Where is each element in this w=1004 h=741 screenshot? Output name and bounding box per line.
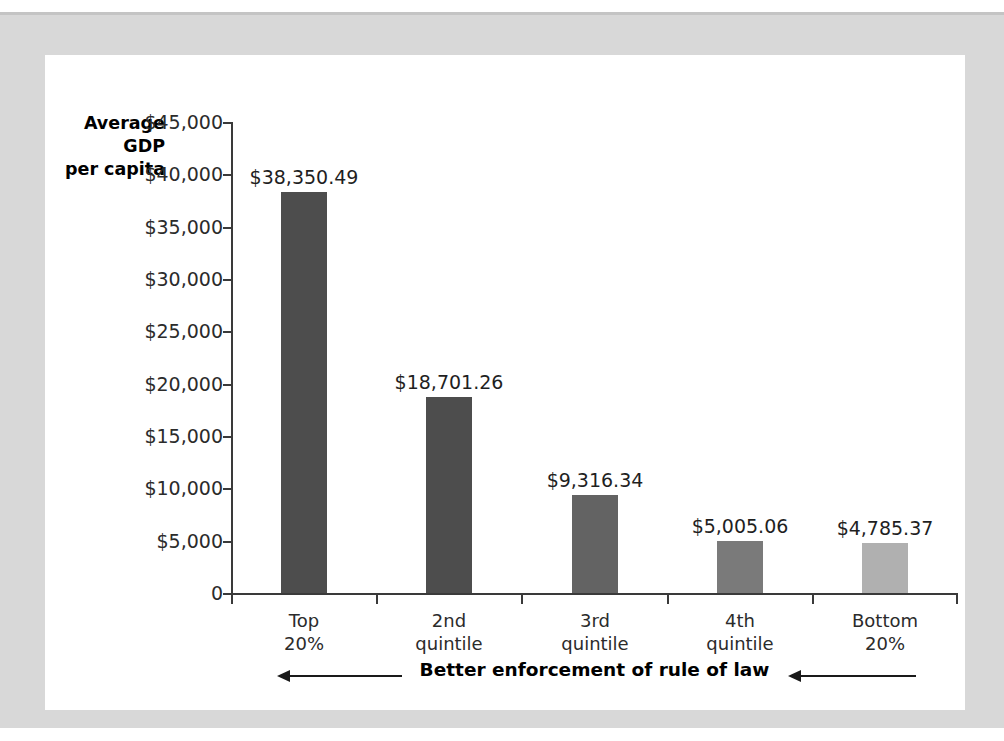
y-axis-title-line-2: GDP: [45, 135, 165, 158]
x-category-line-1: Bottom: [785, 609, 985, 632]
y-tick-label: $30,000: [144, 270, 223, 289]
x-tick-mark: [231, 595, 233, 604]
y-tick-mark: [223, 279, 232, 281]
bar-value-label: $4,785.37: [785, 517, 985, 539]
y-tick-label: $15,000: [144, 427, 223, 446]
y-tick-label: $5,000: [157, 532, 223, 551]
left-pointing-arrow-icon: [277, 670, 402, 682]
y-tick-mark: [223, 331, 232, 333]
y-tick-mark: [223, 541, 232, 543]
bar-column: [572, 122, 618, 593]
arrow-shaft: [799, 675, 917, 677]
y-tick-mark: [223, 384, 232, 386]
left-pointing-arrow-icon-2: [788, 670, 917, 682]
arrow-shaft: [288, 675, 402, 677]
bar-2nd-quintile[interactable]: [426, 397, 472, 593]
y-tick-label: 0: [211, 584, 223, 603]
x-tick-mark: [667, 595, 669, 604]
chart-page: Average GDP per capita $45,000 $40,000 $…: [0, 0, 1004, 741]
y-tick-label: $25,000: [144, 322, 223, 341]
x-axis-line: [231, 593, 958, 595]
y-tick-label: $35,000: [144, 218, 223, 237]
bar-column: [426, 122, 472, 593]
mat-top-edge: [0, 12, 1004, 15]
y-axis-line: [231, 122, 233, 594]
y-tick-mark: [223, 122, 232, 124]
bar-column: [281, 122, 327, 593]
bar-value-label: $38,350.49: [204, 166, 404, 188]
annotation-text: Better enforcement of rule of law: [420, 661, 770, 680]
bar-top-20[interactable]: [281, 192, 327, 593]
y-tick-label: $45,000: [144, 113, 223, 132]
bar-chart-plot-area: Average GDP per capita $45,000 $40,000 $…: [45, 55, 965, 710]
figure-panel: Average GDP per capita $45,000 $40,000 $…: [45, 55, 965, 710]
bar-value-label: $18,701.26: [349, 371, 549, 393]
y-tick-mark: [223, 436, 232, 438]
y-tick-label: $20,000: [144, 375, 223, 394]
bar-3rd-quintile[interactable]: [572, 495, 618, 593]
x-category-label-bottom-20: Bottom 20%: [785, 609, 985, 655]
bar-value-label: $9,316.34: [495, 469, 695, 491]
x-tick-mark: [812, 595, 814, 604]
bar-4th-quintile[interactable]: [717, 541, 763, 593]
x-axis-annotation: Better enforcement of rule of law: [231, 661, 958, 691]
y-tick-label: $10,000: [144, 479, 223, 498]
x-category-line-2: 20%: [785, 632, 985, 655]
y-tick-mark: [223, 488, 232, 490]
x-tick-mark: [521, 595, 523, 604]
x-tick-mark: [376, 595, 378, 604]
bar-bottom-20[interactable]: [862, 543, 908, 593]
y-tick-mark: [223, 227, 232, 229]
x-tick-mark: [956, 595, 958, 604]
